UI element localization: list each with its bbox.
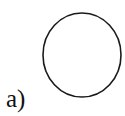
- circle-shape: [43, 13, 121, 97]
- figure-canvas: a): [0, 0, 125, 116]
- panel-label: a): [6, 86, 25, 111]
